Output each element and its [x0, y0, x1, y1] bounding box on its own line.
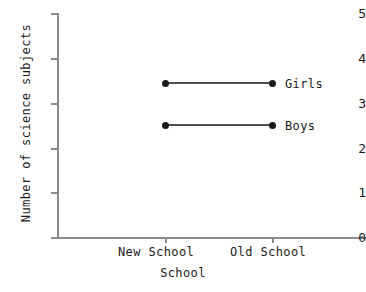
series-point-boys-old-school [269, 122, 276, 129]
x-tick-mark-old-school [272, 237, 274, 243]
series-point-boys-new-school [162, 122, 169, 129]
y-axis-title: Number of science subjects [19, 8, 33, 238]
y-axis-line [57, 13, 59, 238]
y-tick-label-0: 0 [320, 231, 366, 244]
x-tick-label-old-school: Old School [230, 246, 306, 258]
y-tick-mark-4 [51, 58, 57, 60]
series-line-girls [165, 82, 272, 84]
series-point-girls-old-school [269, 80, 276, 87]
y-tick-label-3: 3 [320, 97, 366, 110]
y-tick-label-2: 2 [320, 142, 366, 155]
y-tick-mark-0 [51, 237, 57, 239]
series-point-girls-new-school [162, 80, 169, 87]
y-tick-mark-3 [51, 103, 57, 105]
line-chart: 5 4 3 2 1 0 New School Old School School… [0, 0, 366, 292]
y-tick-label-1: 1 [320, 186, 366, 199]
series-line-boys [165, 124, 272, 126]
y-tick-mark-1 [51, 192, 57, 194]
y-tick-label-4: 4 [320, 52, 366, 65]
y-tick-mark-2 [51, 148, 57, 150]
y-tick-label-5: 5 [320, 7, 366, 20]
x-tick-label-new-school: New School [118, 246, 194, 258]
series-label-girls: Girls [285, 78, 323, 90]
series-label-boys: Boys [285, 120, 316, 132]
y-tick-mark-5 [51, 13, 57, 15]
x-tick-mark-new-school [165, 237, 167, 243]
x-axis-title: School [0, 266, 366, 280]
